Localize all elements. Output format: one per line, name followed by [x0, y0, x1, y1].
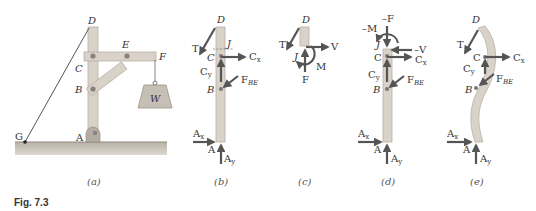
label-neg-f: –F [382, 13, 394, 24]
caption-b: (b) [214, 176, 228, 187]
arrow-t [200, 28, 215, 54]
panel-c: D T J V M F (c) [279, 14, 339, 187]
label-j-d: J [374, 39, 381, 50]
label-cy-d: Cy [368, 69, 380, 82]
panel-d: –M –F J –V C Cx Cy B FBE Ax A Ay (d) [357, 13, 427, 187]
label-c-d: C [374, 52, 382, 63]
caption-e: (e) [470, 176, 484, 187]
deformed-member [471, 26, 496, 142]
segment-dj [300, 27, 309, 46]
label-t-e: T [457, 39, 464, 50]
caption-a: (a) [87, 176, 101, 187]
panel-b: D T J C Cx Cy B FBE Ax A Ay (b) [192, 14, 261, 187]
label-cx-d: Cx [415, 54, 427, 67]
pin-c [90, 53, 95, 58]
ground [15, 142, 167, 155]
label-ax-b: Ax [192, 128, 204, 141]
label-ax-e: Ax [446, 128, 458, 141]
label-cx-b: Cx [249, 51, 261, 64]
label-w: W [150, 93, 161, 104]
label-c-b: C [207, 52, 215, 63]
label-b: B [74, 84, 82, 95]
pin-support-a [86, 127, 100, 142]
arrow-t-c [287, 28, 299, 49]
label-d-c: D [301, 14, 310, 25]
label-a-e: A [462, 144, 471, 155]
label-a-d: A [373, 144, 382, 155]
label-cy-b: Cy [200, 66, 212, 79]
label-d-b: D [216, 14, 225, 25]
label-ax-d: Ax [357, 128, 369, 141]
arrow-fbe [224, 76, 238, 87]
label-g: G [15, 131, 23, 142]
label-b-d: B [372, 84, 380, 95]
figure-caption: Fig. 7.3 [14, 197, 49, 208]
label-fbe-d: FBE [407, 74, 424, 87]
label-m: M [316, 61, 326, 72]
panel-e: D T C Cx Cy B FBE Ax A Ay (e) [446, 14, 525, 187]
pin-b [90, 86, 95, 91]
pin-e [124, 53, 129, 58]
label-c: C [75, 63, 83, 74]
label-d: D [87, 15, 96, 26]
label-neg-m: –M [362, 23, 377, 34]
label-d-e: D [471, 14, 480, 25]
label-a-b: A [207, 144, 216, 155]
caption-d: (d) [381, 176, 395, 187]
label-v: V [330, 41, 339, 52]
label-f-c: F [302, 74, 309, 85]
label-b-e: B [464, 84, 472, 95]
label-fbe-b: FBE [241, 74, 258, 87]
label-j-c: J [292, 51, 299, 62]
arrow-t-e [465, 30, 478, 53]
label-b-b: B [206, 84, 214, 95]
figure-canvas: D E F C B A G W (a) Fig. 7.3 D T J C Cx … [0, 0, 536, 211]
label-e: E [121, 39, 130, 50]
caption-c: (c) [298, 176, 312, 187]
label-j-b: J [225, 38, 232, 49]
label-c-e: C [473, 52, 481, 63]
label-ay-e: Ay [479, 153, 491, 166]
member-ad-fbd [216, 27, 225, 142]
label-ay-d: Ay [390, 153, 402, 166]
label-cy-e: Cy [463, 63, 475, 76]
label-f: F [158, 51, 167, 62]
label-ay-b: Ay [223, 153, 235, 166]
label-t-c: T [279, 39, 286, 50]
label-a: A [75, 132, 84, 143]
label-t-b: T [192, 43, 199, 54]
label-fbe-e: FBE [496, 73, 513, 86]
label-cx-e: Cx [513, 52, 525, 65]
panel-a: D E F C B A G W (a) [15, 15, 172, 187]
